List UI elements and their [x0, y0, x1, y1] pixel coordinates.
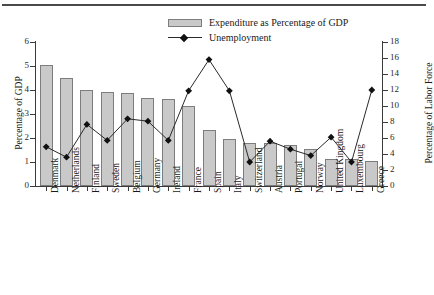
- y-axis-right-tick: [382, 154, 388, 155]
- y-axis-left-tick-label: 3: [9, 109, 29, 118]
- line-data-point: [206, 56, 213, 63]
- x-axis-tick: [67, 186, 68, 191]
- x-axis-category-label: Finland: [91, 164, 101, 193]
- x-axis-tick: [270, 186, 271, 191]
- x-axis-tick: [372, 186, 373, 191]
- x-axis-category-label: Denmark: [50, 158, 60, 193]
- bar-swatch-icon: [168, 19, 202, 27]
- y-axis-left-tick-label: 2: [9, 133, 29, 142]
- y-axis-right-tick: [382, 58, 388, 59]
- x-axis-category-label: Sweden: [111, 163, 121, 193]
- plot-area: [36, 42, 382, 186]
- page-top-rule: [2, 4, 426, 6]
- x-axis-category-label: Netherlands: [71, 147, 81, 193]
- y-axis-right-tick: [382, 90, 388, 91]
- x-axis-tick: [209, 186, 210, 191]
- x-axis-category-label: Belgium: [132, 160, 142, 193]
- y-axis-right-tick-label: 12: [390, 85, 412, 94]
- x-axis-tick: [189, 186, 190, 191]
- y-axis-left-tick-label: 6: [9, 37, 29, 46]
- line-data-point: [287, 146, 294, 153]
- line-data-point: [368, 87, 375, 94]
- x-axis-category-label: Switzerland: [254, 148, 264, 193]
- x-axis-category-label: Spain: [213, 171, 223, 193]
- x-axis-category-label: Luxembourg: [355, 144, 365, 193]
- y-axis-right-line: [382, 41, 383, 187]
- y-axis-right-tick: [382, 106, 388, 107]
- y-axis-left-tick-label: 5: [9, 61, 29, 70]
- x-axis-category-label: Ireland: [172, 166, 182, 193]
- x-axis-tick: [250, 186, 251, 191]
- y-axis-left-tick: [30, 186, 36, 187]
- legend-item-expenditure: Expenditure as Percentage of GDP: [168, 16, 348, 29]
- y-axis-right-tick-label: 8: [390, 117, 412, 126]
- x-axis-tick: [290, 186, 291, 191]
- legend-label-expenditure: Expenditure as Percentage of GDP: [209, 17, 348, 28]
- line-data-point: [226, 87, 233, 94]
- line-data-point: [185, 87, 192, 94]
- line-diamond-marker-icon: [168, 34, 202, 42]
- x-axis-category-label: France: [193, 167, 203, 193]
- y-axis-right-tick: [382, 138, 388, 139]
- y-axis-right-tick-label: 0: [390, 181, 412, 190]
- x-axis-category-label: Austria: [274, 165, 284, 193]
- x-axis-tick: [87, 186, 88, 191]
- y-axis-right-tick-label: 18: [390, 37, 412, 46]
- y-axis-right-tick: [382, 42, 388, 43]
- x-axis-category-label: Norway: [315, 162, 325, 193]
- y-axis-right-tick-label: 6: [390, 133, 412, 142]
- x-axis-category-label: Germany: [152, 158, 162, 193]
- line-data-point: [43, 143, 50, 150]
- line-series-unemployment: [36, 42, 382, 186]
- y-axis-right-tick-label: 14: [390, 69, 412, 78]
- x-axis-category-label: Italy: [233, 176, 243, 193]
- x-axis-tick: [331, 186, 332, 191]
- x-axis-tick: [229, 186, 230, 191]
- x-axis-category-label: Greece: [376, 166, 386, 193]
- x-axis-tick: [46, 186, 47, 191]
- y-axis-right-tick-label: 10: [390, 101, 412, 110]
- y-axis-left-tick-label: 4: [9, 85, 29, 94]
- x-axis-tick: [168, 186, 169, 191]
- y-axis-right-tick: [382, 122, 388, 123]
- y-axis-left-tick-label: 0: [9, 181, 29, 190]
- x-axis-category-label: Portugal: [294, 161, 304, 193]
- y-axis-right-tick-label: 16: [390, 53, 412, 62]
- x-axis-tick: [351, 186, 352, 191]
- y-axis-right-tick-label: 4: [390, 149, 412, 158]
- line-data-point: [63, 154, 70, 161]
- y-axis-right-tick-label: 2: [390, 165, 412, 174]
- x-axis-tick: [128, 186, 129, 191]
- y-axis-left-tick-label: 1: [9, 157, 29, 166]
- x-axis-tick: [311, 186, 312, 191]
- y-axis-right-tick: [382, 74, 388, 75]
- x-axis-category-label: United Kingdom: [335, 129, 345, 193]
- x-axis-tick: [148, 186, 149, 191]
- x-axis-tick: [107, 186, 108, 191]
- y-axis-right-title: Percentage of Labor Force: [424, 53, 434, 173]
